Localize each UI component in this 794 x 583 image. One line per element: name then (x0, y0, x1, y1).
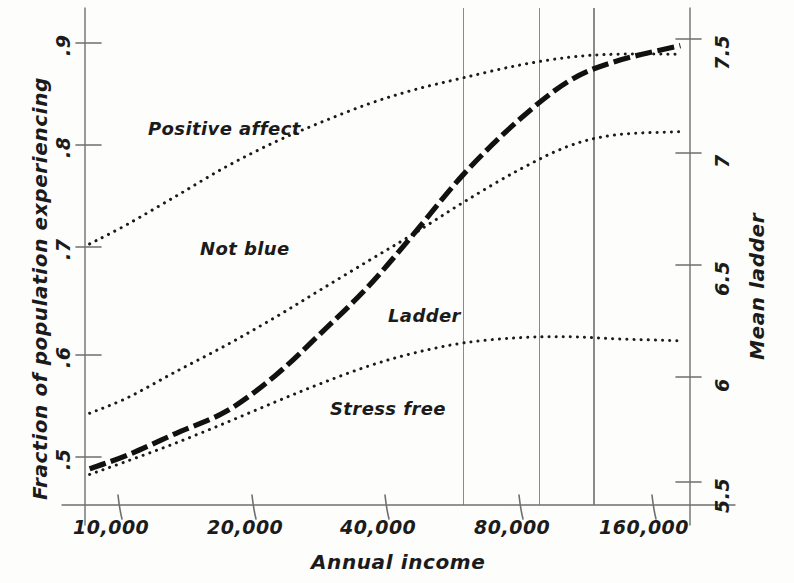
chart-canvas (0, 0, 794, 583)
series-label-ladder: Ladder (388, 305, 461, 326)
y-left-tick-label-05: .5 (52, 449, 74, 470)
x-tick-label-10000: 10,000 (73, 516, 149, 538)
x-axis-title: Annual income (311, 550, 485, 574)
series-label-stress-free: Stress free (330, 398, 446, 419)
y-left-tick-label-07: .7 (52, 239, 74, 260)
x-tick-label-20000: 20,000 (207, 516, 283, 538)
vertical-gridlines (464, 8, 594, 505)
series-path-not-blue (90, 132, 681, 414)
y-left-tick-label-08: .8 (52, 137, 74, 158)
series-label-not-blue: Not blue (200, 238, 290, 259)
y-right-tick-label-65: 6.5 (711, 261, 733, 296)
chart-figure: Fraction of population experiencing Mean… (0, 0, 794, 583)
y-left-tick-label-06: .6 (52, 347, 74, 368)
axis-ticks (76, 39, 701, 519)
x-tick-label-160000: 160,000 (599, 516, 689, 538)
x-tick-label-80000: 80,000 (474, 516, 550, 538)
y-axis-right-title: Mean ladder (745, 213, 769, 360)
y-right-tick-label-6: 6 (711, 378, 733, 392)
y-left-tick-label-09: .9 (52, 35, 74, 56)
x-tick-label-40000: 40,000 (340, 516, 416, 538)
series-label-positive-affect: Positive affect (148, 118, 301, 139)
y-axis-left-title: Fraction of population experiencing (28, 77, 52, 500)
series-path-positive-affect (90, 54, 681, 244)
y-right-tick-label-55: 5.5 (711, 478, 733, 513)
y-right-tick-label-75: 7.5 (711, 35, 733, 70)
y-right-tick-label-7: 7 (711, 154, 733, 168)
